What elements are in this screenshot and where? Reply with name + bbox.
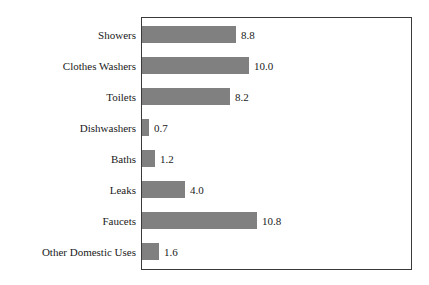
category-label: Showers — [98, 29, 141, 41]
bar-row: Leaks 4.0 — [0, 181, 429, 198]
category-label: Clothes Washers — [63, 60, 141, 72]
bar-value-label: 1.2 — [155, 153, 174, 165]
bar — [142, 243, 159, 260]
bar-row: Dishwashers 0.7 — [0, 119, 429, 136]
bar-value-label: 8.8 — [236, 29, 255, 41]
bar-row: Baths 1.2 — [0, 150, 429, 167]
bar-row: Other Domestic Uses 1.6 — [0, 243, 429, 260]
plot-area — [141, 17, 412, 270]
bar — [142, 26, 236, 43]
bar — [142, 212, 257, 229]
category-label: Faucets — [102, 215, 141, 227]
bar-row: Toilets 8.2 — [0, 88, 429, 105]
bar-value-label: 8.2 — [230, 91, 249, 103]
bar — [142, 150, 155, 167]
bar-value-label: 10.0 — [249, 60, 273, 72]
category-label: Other Domestic Uses — [42, 246, 141, 258]
category-label: Leaks — [110, 184, 141, 196]
category-label: Dishwashers — [80, 122, 141, 134]
bar-value-label: 4.0 — [185, 184, 204, 196]
bar-value-label: 0.7 — [149, 122, 168, 134]
bar-value-label: 1.6 — [159, 246, 178, 258]
bar-chart: Showers 8.8 Clothes Washers 10.0 Toilets… — [0, 0, 429, 285]
category-label: Toilets — [106, 91, 141, 103]
bar — [142, 57, 249, 74]
bar-value-label: 10.8 — [257, 215, 281, 227]
bar — [142, 119, 149, 136]
bar — [142, 181, 185, 198]
bar-row: Showers 8.8 — [0, 26, 429, 43]
bar-row: Faucets 10.8 — [0, 212, 429, 229]
category-label: Baths — [111, 153, 141, 165]
bar-row: Clothes Washers 10.0 — [0, 57, 429, 74]
bar — [142, 88, 230, 105]
